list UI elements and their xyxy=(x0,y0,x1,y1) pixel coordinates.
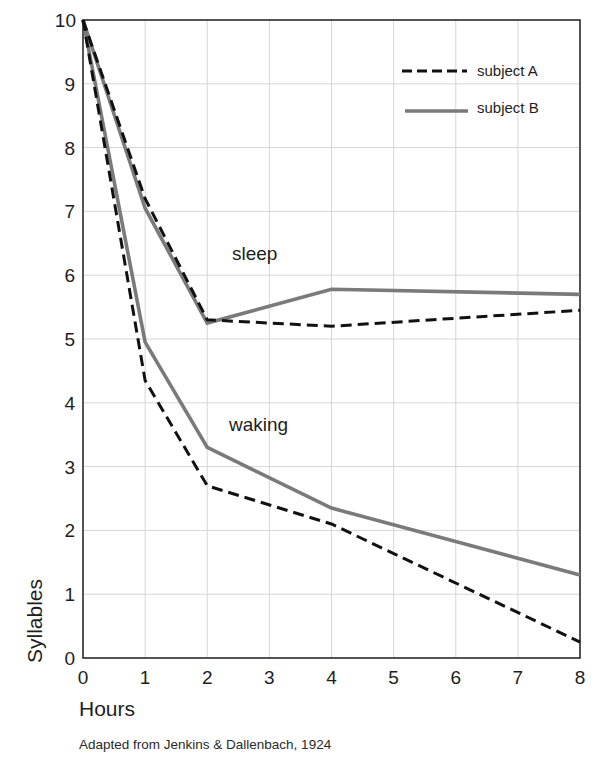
x-tick-label: 6 xyxy=(450,667,461,688)
x-tick-label: 5 xyxy=(388,667,399,688)
x-tick-label: 3 xyxy=(264,667,275,688)
annotation-sleep: sleep xyxy=(232,243,277,264)
line-chart: 012345678 012345678910 sleep waking subj… xyxy=(0,0,602,771)
y-tick-label: 3 xyxy=(64,457,75,478)
annotation-waking: waking xyxy=(228,414,288,435)
y-tick-label: 9 xyxy=(64,74,75,95)
legend-label-subject-a: subject A xyxy=(477,62,538,79)
x-axis-title: Hours xyxy=(79,697,135,720)
y-tick-labels: 012345678910 xyxy=(55,10,76,669)
y-tick-label: 0 xyxy=(64,648,75,669)
y-axis-title: Syllables xyxy=(23,579,46,663)
x-tick-label: 1 xyxy=(140,667,151,688)
x-tick-label: 8 xyxy=(575,667,586,688)
legend-label-subject-b: subject B xyxy=(477,99,539,116)
y-tick-label: 4 xyxy=(64,393,75,414)
x-tick-labels: 012345678 xyxy=(78,667,586,688)
y-tick-label: 2 xyxy=(64,520,75,541)
x-tick-label: 7 xyxy=(513,667,524,688)
y-tick-label: 8 xyxy=(64,138,75,159)
y-tick-label: 10 xyxy=(55,10,76,31)
y-tick-label: 5 xyxy=(64,329,75,350)
y-tick-label: 1 xyxy=(64,584,75,605)
x-tick-label: 2 xyxy=(202,667,213,688)
x-tick-label: 4 xyxy=(326,667,337,688)
y-tick-label: 7 xyxy=(64,201,75,222)
y-tick-label: 6 xyxy=(64,265,75,286)
x-tick-label: 0 xyxy=(78,667,89,688)
source-caption: Adapted from Jenkins & Dallenbach, 1924 xyxy=(79,737,331,752)
